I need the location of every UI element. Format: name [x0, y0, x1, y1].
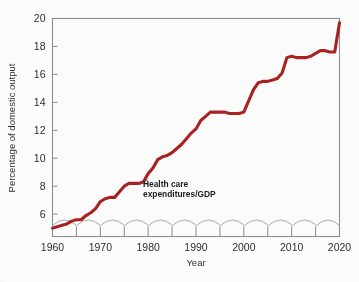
x-tick-label-1960: 1960: [41, 241, 65, 253]
y-tick-label-6: 6: [40, 208, 46, 220]
y-tick-label-16: 16: [34, 68, 46, 80]
x-tick-label-1970: 1970: [89, 241, 113, 253]
annotation-label-line1: Health care: [143, 179, 188, 189]
line-chart: 68101214161820 1960197019801990200020102…: [0, 0, 359, 282]
y-tick-label-8: 8: [40, 180, 46, 192]
x-tick-label-2010: 2010: [280, 241, 304, 253]
y-tick-label-20: 20: [34, 12, 46, 24]
chart-figure: 68101214161820 1960197019801990200020102…: [0, 0, 359, 282]
annotation-label-line2: expenditures/GDP: [143, 189, 216, 199]
y-tick-label-14: 14: [34, 96, 46, 108]
y-tick-label-18: 18: [34, 40, 46, 52]
x-tick-label-2000: 2000: [232, 241, 256, 253]
x-axis-title: Year: [186, 257, 205, 268]
x-tick-label-2020: 2020: [328, 241, 352, 253]
x-tick-label-1980: 1980: [136, 241, 160, 253]
y-tick-label-10: 10: [34, 152, 46, 164]
x-tick-label-1990: 1990: [184, 241, 208, 253]
y-axis-title: Percentage of domestic output: [6, 63, 17, 192]
y-tick-label-12: 12: [34, 124, 46, 136]
